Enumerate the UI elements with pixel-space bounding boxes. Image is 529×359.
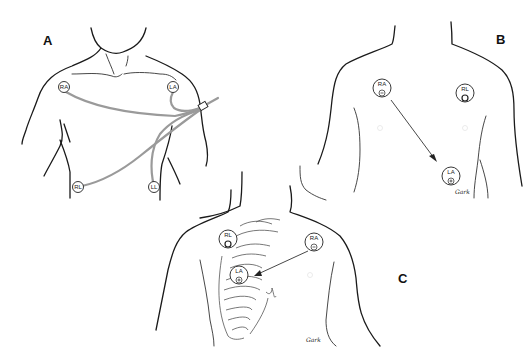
electrode-ll-a: LL: [149, 182, 160, 193]
artist-signature-c: Gark: [306, 336, 321, 343]
electrode-la-b: LA: [442, 167, 460, 185]
panel-label-a: A: [43, 33, 52, 48]
electrode-ra-a: RA: [59, 82, 70, 93]
panel-label-c: C: [398, 271, 407, 286]
electrode-rl-b: RL: [456, 84, 474, 102]
electrode-ra-b: RA: [373, 79, 391, 97]
electrode-la-a: LA: [168, 82, 179, 93]
panel-a: RA LA RL LL: [22, 28, 242, 218]
svg-text:RL: RL: [74, 184, 82, 190]
svg-text:LA: LA: [235, 268, 242, 274]
panel-b: RA RL LA Gark: [300, 22, 522, 200]
electrode-rl-c: RL: [219, 230, 237, 248]
electrode-rl-a: RL: [73, 182, 84, 193]
ecg-lead-diagram: RA LA RL LL RA: [0, 0, 529, 359]
svg-text:RL: RL: [224, 232, 232, 238]
artist-signature-b: Gark: [455, 188, 470, 195]
svg-text:RL: RL: [461, 86, 469, 92]
svg-text:LL: LL: [151, 184, 158, 190]
electrode-ra-c: RA: [305, 233, 323, 251]
svg-text:LA: LA: [447, 169, 454, 175]
panel-label-b: B: [496, 32, 505, 47]
svg-text:LA: LA: [169, 84, 176, 90]
svg-text:RA: RA: [60, 84, 68, 90]
svg-text:RA: RA: [310, 235, 318, 241]
lead-cables: [66, 92, 218, 186]
electrode-la-c: LA: [230, 266, 248, 284]
panel-c: RL RA LA Gark: [156, 186, 380, 346]
svg-text:RA: RA: [378, 81, 386, 87]
